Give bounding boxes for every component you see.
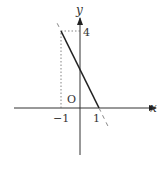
dashed-extension-lower	[99, 108, 109, 129]
tick-label-x-neg-one: −1	[53, 112, 69, 125]
origin-label: O	[67, 93, 76, 106]
tick-label-x-one: 1	[93, 112, 100, 125]
tick-label-y-four: 4	[83, 26, 90, 39]
y-axis-label: y	[75, 3, 83, 17]
dashed-extension-upper	[57, 23, 61, 31]
x-axis-label: x	[150, 101, 157, 115]
coordinate-diagram: y x O −1 1 4	[0, 0, 164, 169]
